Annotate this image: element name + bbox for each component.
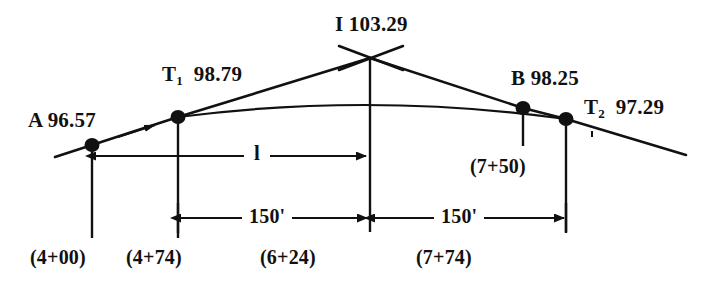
label-station-t2: (7+74) — [416, 247, 472, 267]
label-point-t1-subscript: 1 — [176, 73, 183, 88]
back-tangent-direction-arrow-icon — [118, 125, 155, 137]
label-point-t2-elevation: 97.29 — [616, 95, 664, 119]
label-point-t2-subscript: 2 — [598, 106, 605, 121]
point-marker-b — [516, 101, 531, 115]
label-point-t2: T2 97.29 — [584, 97, 664, 120]
label-station-b: (7+50) — [470, 156, 526, 176]
point-marker-t1 — [171, 110, 186, 124]
diagram-canvas — [0, 0, 717, 287]
label-point-t1: T1 98.79 — [162, 64, 242, 87]
label-dimension-length-l: l — [244, 143, 270, 164]
label-point-t1-elevation: 98.79 — [194, 62, 242, 86]
vertical-curve-diagram: A 96.57 T1 98.79 I 103.29 B 98.25 T2 97.… — [0, 0, 717, 287]
label-station-t1: (4+74) — [126, 247, 182, 267]
vertical-curve-path — [178, 105, 566, 119]
label-point-a: A 96.57 — [28, 110, 96, 131]
point-marker-a — [85, 138, 100, 152]
label-station-a: (4+00) — [30, 247, 86, 267]
label-point-i: I 103.29 — [335, 14, 408, 35]
label-point-b: B 98.25 — [511, 68, 579, 89]
label-station-pi: (6+24) — [260, 247, 316, 267]
label-point-t2-letter: T — [584, 95, 598, 119]
point-marker-t2 — [559, 112, 574, 126]
label-dimension-150-left: 150' — [242, 206, 292, 226]
label-dimension-150-right: 150' — [434, 206, 484, 226]
label-point-t1-letter: T — [162, 62, 176, 86]
